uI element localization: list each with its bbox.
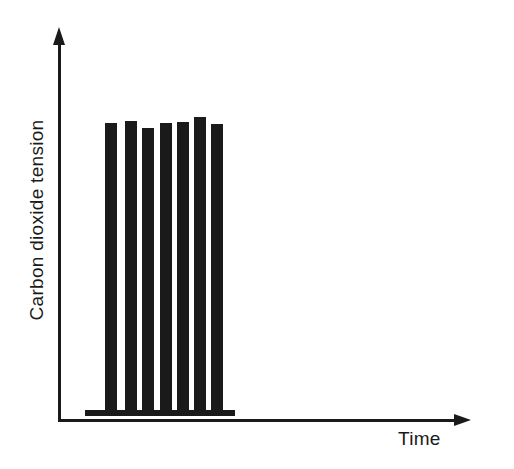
trace-baseline xyxy=(85,410,235,416)
x-axis-label: Time xyxy=(398,428,441,450)
y-axis-label: Carbon dioxide tension xyxy=(26,70,48,370)
bar-breath-4 xyxy=(160,123,172,410)
bar-breath-2 xyxy=(125,121,137,410)
bar-breath-1 xyxy=(105,123,117,410)
bar-breath-6 xyxy=(194,117,206,410)
x-axis xyxy=(58,419,457,422)
capnograph-figure: Carbon dioxide tension Time xyxy=(0,0,514,469)
y-axis xyxy=(58,40,61,422)
bar-breath-3 xyxy=(142,128,154,410)
bar-breath-5 xyxy=(177,122,189,410)
bar-breath-7 xyxy=(211,124,223,410)
arrow-up-icon xyxy=(53,27,65,45)
arrow-right-icon xyxy=(454,414,471,426)
